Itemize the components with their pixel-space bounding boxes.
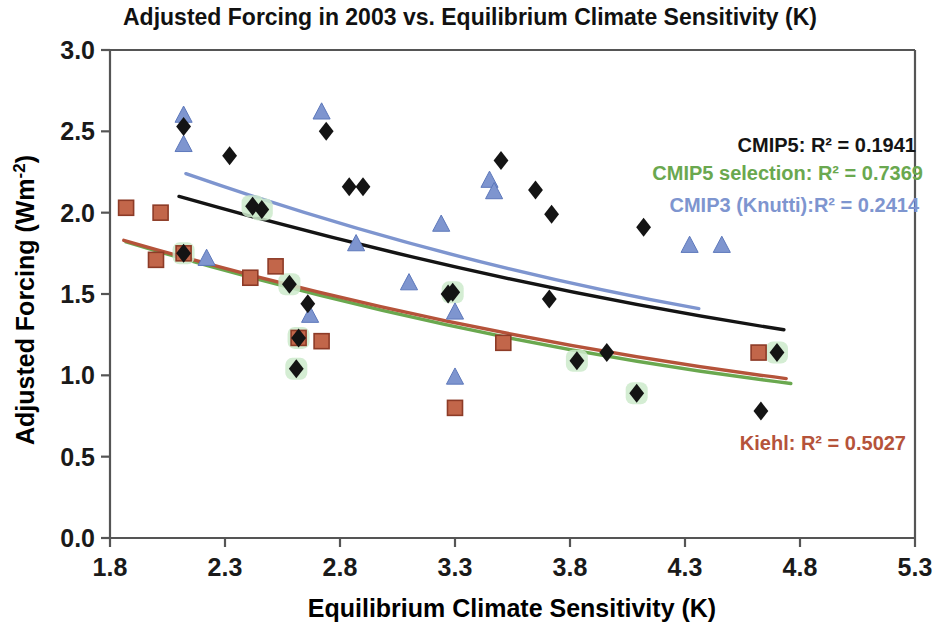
data-point-cmip3 (198, 249, 215, 265)
y-axis-title-main: Adjusted Forcing (Wm (11, 178, 39, 445)
data-point-cmip3 (433, 215, 450, 231)
data-point-kiehl (496, 335, 511, 350)
y-tick-label: 1.0 (60, 361, 95, 389)
svg-text:Adjusted Forcing (Wm-2): Adjusted Forcing (Wm-2) (10, 155, 39, 445)
data-point-cmip5 (300, 294, 315, 313)
x-tick-label: 2.3 (208, 553, 243, 581)
selection-halos (173, 195, 788, 404)
data-point-cmip3 (400, 274, 417, 290)
data-point-kiehl (119, 200, 134, 215)
data-point-cmip5 (636, 218, 651, 237)
legend-item-cmip5: CMIP5: R² = 0.1941 (738, 134, 916, 156)
y-tick-label: 2.5 (60, 117, 95, 145)
data-point-kiehl (243, 270, 258, 285)
legend-item-cmip3: CMIP3 (Knutti):R² = 0.2414 (670, 194, 920, 216)
data-point-cmip5 (319, 122, 334, 141)
data-point-cmip5 (494, 151, 509, 170)
data-point-cmip3 (446, 368, 463, 384)
y-tick-label: 0.5 (60, 443, 95, 471)
data-point-cmip5 (528, 180, 543, 199)
data-point-cmip5 (222, 146, 237, 165)
data-point-cmip3 (175, 135, 192, 151)
x-tick-label: 4.3 (668, 553, 703, 581)
data-point-cmip3 (313, 103, 330, 119)
data-point-cmip5 (342, 177, 357, 196)
x-tick-label: 2.8 (323, 553, 358, 581)
axis-frame (110, 50, 915, 538)
data-point-kiehl (314, 334, 329, 349)
legend-item-kiehl: Kiehl: R² = 0.5027 (740, 432, 906, 454)
series-markers-cmip3 (175, 103, 730, 384)
x-tick-label: 5.3 (898, 553, 933, 581)
x-axis-ticks: 1.82.32.83.33.84.34.85.3 (93, 538, 933, 581)
legend: CMIP5: R² = 0.1941 CMIP5 selection: R² =… (652, 134, 923, 454)
x-tick-label: 1.8 (93, 553, 128, 581)
data-point-kiehl (751, 345, 766, 360)
x-axis-title: Equilibrium Climate Sensitivity (K) (308, 594, 716, 622)
legend-item-cmip5-selection: CMIP5 selection: R² = 0.7369 (652, 162, 923, 184)
scatter-plot: Adjusted Forcing in 2003 vs. Equilibrium… (0, 0, 940, 626)
x-tick-label: 3.8 (553, 553, 588, 581)
data-point-cmip5 (544, 205, 559, 224)
y-tick-label: 3.0 (60, 36, 95, 64)
data-point-kiehl (149, 252, 164, 267)
data-point-kiehl (268, 259, 283, 274)
x-tick-label: 4.8 (783, 553, 818, 581)
data-point-cmip5 (599, 343, 614, 362)
y-axis-title: Adjusted Forcing (Wm-2) (10, 155, 39, 445)
y-axis-title-superscript: -2 (10, 163, 29, 178)
y-tick-label: 2.0 (60, 199, 95, 227)
y-axis-ticks: 0.00.51.01.52.02.53.0 (60, 36, 110, 552)
series-markers-kiehl (119, 200, 767, 415)
y-axis-title-close: ) (11, 155, 39, 163)
data-point-cmip5 (542, 289, 557, 308)
y-tick-label: 0.0 (60, 524, 95, 552)
data-point-cmip5 (753, 402, 768, 421)
chart-title: Adjusted Forcing in 2003 vs. Equilibrium… (123, 4, 817, 30)
data-point-kiehl (448, 400, 463, 415)
data-point-cmip5 (356, 177, 371, 196)
x-tick-label: 3.3 (438, 553, 473, 581)
data-point-cmip3 (681, 236, 698, 252)
data-point-cmip3 (713, 236, 730, 252)
chart-figure: Adjusted Forcing in 2003 vs. Equilibrium… (0, 0, 940, 626)
data-point-cmip3 (446, 303, 463, 319)
y-tick-label: 1.5 (60, 280, 95, 308)
data-point-kiehl (153, 205, 168, 220)
